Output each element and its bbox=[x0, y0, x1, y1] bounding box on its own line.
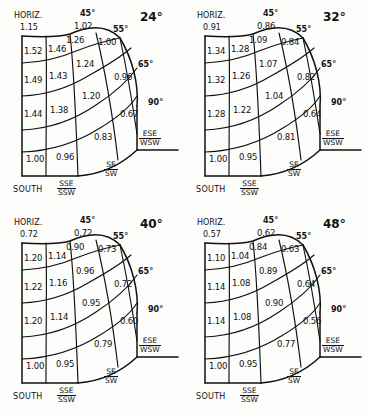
compass-label-ese-wsw: ESE WSW bbox=[322, 337, 344, 354]
cell-value-c1r4: 1.00 bbox=[26, 362, 44, 371]
cell-value-c1r1: 1.20 bbox=[24, 254, 42, 263]
cell-value-c3r1: 1.26 bbox=[66, 36, 84, 45]
cell-value-c4r3: 0.67 bbox=[120, 110, 138, 119]
angle-label-65: 65° bbox=[321, 61, 336, 69]
cell-value-c1r1: 1.10 bbox=[207, 254, 225, 263]
compass-label-sse-ssw: SSE SSW bbox=[57, 387, 76, 404]
cell-value-c2r2: 1.08 bbox=[232, 279, 250, 288]
compass-wsw: WSW bbox=[322, 139, 344, 147]
angle-label-55: 55° bbox=[113, 233, 128, 241]
compass-label-ese-wsw: ESE WSW bbox=[139, 130, 161, 147]
angle-label-65: 65° bbox=[138, 61, 153, 69]
angle-label-90: 90° bbox=[331, 99, 346, 107]
cell-value-c1r2: 1.22 bbox=[24, 283, 42, 292]
panel-title: 40° bbox=[140, 218, 163, 230]
cell-value-c2r1: 1.04 bbox=[231, 252, 249, 261]
angle-label-90: 90° bbox=[148, 306, 163, 314]
compass-label-sse-ssw: SSE SSW bbox=[240, 180, 259, 197]
nomogram-panel-0: HORIZ. 1.15 24° 45° 55° 65° 90° 1.02 1.5… bbox=[0, 0, 183, 207]
cell-value-c1r3: 1.20 bbox=[24, 317, 42, 326]
compass-wsw: WSW bbox=[139, 346, 161, 354]
compass-ssw: SSW bbox=[57, 396, 76, 404]
cell-value-c3r1: 0.90 bbox=[66, 243, 84, 252]
angle-label-45: 45° bbox=[80, 10, 95, 18]
cell-value-c3r2: 1.07 bbox=[259, 60, 277, 69]
compass-label-se-sw: SE SW bbox=[104, 161, 118, 178]
cell-value-c2r1: 1.28 bbox=[231, 45, 249, 54]
cell-value-c3r1: 1.09 bbox=[249, 36, 267, 45]
angle-label-45: 45° bbox=[263, 217, 278, 225]
cell-value-c4r2: 0.64 bbox=[297, 280, 315, 289]
angle-label-55: 55° bbox=[113, 26, 128, 34]
cell-value-c1r3: 1.44 bbox=[24, 110, 42, 119]
cell-value-top: 1.02 bbox=[74, 22, 92, 31]
cell-value-c3r3: 1.20 bbox=[82, 92, 100, 101]
compass-label-se-sw: SE SW bbox=[287, 161, 301, 178]
cell-value-c3r2: 0.89 bbox=[259, 267, 277, 276]
nomogram-panel-1: HORIZ. 0.91 32° 45° 55° 65° 90° 0.86 1.3… bbox=[183, 0, 366, 207]
cell-value-c1r1: 1.34 bbox=[207, 47, 225, 56]
nomogram-grid: HORIZ. 1.15 24° 45° 55° 65° 90° 1.02 1.5… bbox=[0, 0, 366, 414]
compass-label-south: SOUTH bbox=[196, 393, 226, 401]
compass-label-se-sw: SE SW bbox=[104, 368, 118, 385]
angle-label-55: 55° bbox=[296, 26, 311, 34]
cell-value-c3r4: 0.81 bbox=[277, 133, 295, 142]
compass-sw: SW bbox=[287, 377, 301, 385]
cell-value-c4r2: 0.96 bbox=[114, 73, 132, 82]
cell-value-c4r1: 0.63 bbox=[281, 245, 299, 254]
compass-label-sse-ssw: SSE SSW bbox=[240, 387, 259, 404]
cell-value-c1r2: 1.14 bbox=[207, 283, 225, 292]
cell-value-c3r1: 0.84 bbox=[249, 243, 267, 252]
compass-label-se-sw: SE SW bbox=[287, 368, 301, 385]
cell-value-c2r4: 0.96 bbox=[56, 153, 74, 162]
cell-value-c3r4: 0.79 bbox=[94, 340, 112, 349]
panel-title: 32° bbox=[323, 11, 346, 23]
cell-value-c4r3: 0.56 bbox=[303, 317, 321, 326]
horiz-value: 0.57 bbox=[203, 231, 221, 239]
horiz-label: HORIZ. bbox=[197, 219, 225, 227]
cell-value-c4r3: 0.64 bbox=[303, 110, 321, 119]
cell-value-c1r2: 1.32 bbox=[207, 76, 225, 85]
cell-value-c2r3: 1.38 bbox=[50, 106, 68, 115]
horiz-value: 1.15 bbox=[20, 24, 38, 32]
cell-value-c3r4: 0.83 bbox=[94, 133, 112, 142]
panel-title: 24° bbox=[140, 11, 163, 23]
cell-value-c2r1: 1.14 bbox=[48, 252, 66, 261]
compass-ssw: SSW bbox=[240, 189, 259, 197]
compass-sw: SW bbox=[104, 377, 118, 385]
cell-value-c4r1: 1.00 bbox=[98, 38, 116, 47]
cell-value-c4r2: 0.72 bbox=[114, 280, 132, 289]
horiz-value: 0.91 bbox=[203, 24, 221, 32]
panel-title: 48° bbox=[323, 218, 346, 230]
compass-label-south: SOUTH bbox=[196, 186, 226, 194]
cell-value-c2r2: 1.43 bbox=[49, 72, 67, 81]
compass-label-ese-wsw: ESE WSW bbox=[322, 130, 344, 147]
compass-wsw: WSW bbox=[322, 346, 344, 354]
compass-label-sse-ssw: SSE SSW bbox=[57, 180, 76, 197]
cell-value-c4r2: 0.82 bbox=[297, 73, 315, 82]
compass-label-south: SOUTH bbox=[13, 186, 43, 194]
cell-value-c1r4: 1.00 bbox=[26, 155, 44, 164]
compass-ssw: SSW bbox=[57, 189, 76, 197]
cell-value-c2r4: 0.95 bbox=[239, 153, 257, 162]
cell-value-c1r4: 1.00 bbox=[209, 155, 227, 164]
cell-value-c3r3: 0.95 bbox=[82, 299, 100, 308]
cell-value-c2r3: 1.22 bbox=[233, 106, 251, 115]
horiz-value: 0.72 bbox=[20, 231, 38, 239]
compass-ssw: SSW bbox=[240, 396, 259, 404]
cell-value-c4r1: 0.73 bbox=[98, 245, 116, 254]
cell-value-top: 0.62 bbox=[257, 229, 275, 238]
angle-label-65: 65° bbox=[321, 268, 336, 276]
angle-label-45: 45° bbox=[80, 217, 95, 225]
angle-label-90: 90° bbox=[331, 306, 346, 314]
cell-value-c2r4: 0.95 bbox=[56, 360, 74, 369]
horiz-label: HORIZ. bbox=[14, 219, 42, 227]
cell-value-c1r4: 1.00 bbox=[209, 362, 227, 371]
cell-value-c2r2: 1.26 bbox=[232, 72, 250, 81]
angle-label-65: 65° bbox=[138, 268, 153, 276]
cell-value-c2r3: 1.08 bbox=[233, 313, 251, 322]
angle-label-55: 55° bbox=[296, 233, 311, 241]
cell-value-c2r2: 1.16 bbox=[49, 279, 67, 288]
cell-value-c3r4: 0.77 bbox=[277, 340, 295, 349]
nomogram-panel-2: HORIZ. 0.72 40° 45° 55° 65° 90° 0.72 1.2… bbox=[0, 207, 183, 414]
